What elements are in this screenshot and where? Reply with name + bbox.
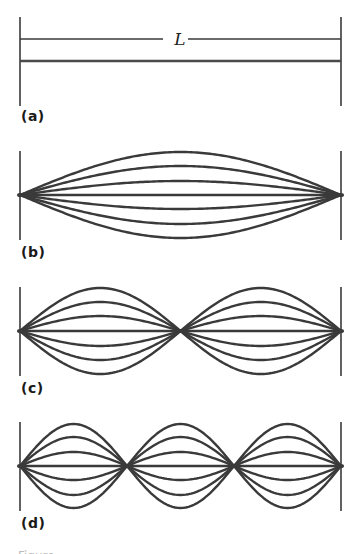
panel-label-a: (a): [21, 108, 45, 124]
node-point: [124, 464, 130, 468]
node-point: [17, 464, 23, 468]
node-point: [231, 464, 237, 468]
node-point: [17, 329, 23, 333]
wave-snapshot-3: [20, 181, 341, 195]
figure-canvas: [0, 0, 358, 554]
node-point: [178, 329, 184, 333]
panel-label-b: (b): [21, 244, 45, 260]
standing-wave-figure: L (a) (b) (c) (d) Figure: [0, 0, 358, 554]
node-point: [338, 464, 344, 468]
panel-b-graphics: [17, 151, 344, 240]
figure-caption-fragment: Figure: [18, 549, 168, 554]
length-symbol-L: L: [174, 30, 185, 48]
node-point: [17, 193, 23, 197]
node-point: [338, 329, 344, 333]
panel-label-c: (c): [21, 380, 44, 396]
panel-label-d: (d): [21, 515, 45, 531]
panel-d-graphics: [17, 422, 344, 511]
panel-c-graphics: [17, 287, 344, 376]
node-point: [338, 193, 344, 197]
wave-snapshot-5: [20, 195, 341, 209]
